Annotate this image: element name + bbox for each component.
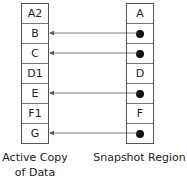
active-copy-label-line1: Active Copy bbox=[0, 150, 70, 165]
snapshot-region-label: Snapshot Region bbox=[92, 150, 187, 165]
active-copy-label-line2: of Data bbox=[0, 165, 70, 180]
active-copy-label: Active Copy of Data bbox=[0, 150, 70, 180]
